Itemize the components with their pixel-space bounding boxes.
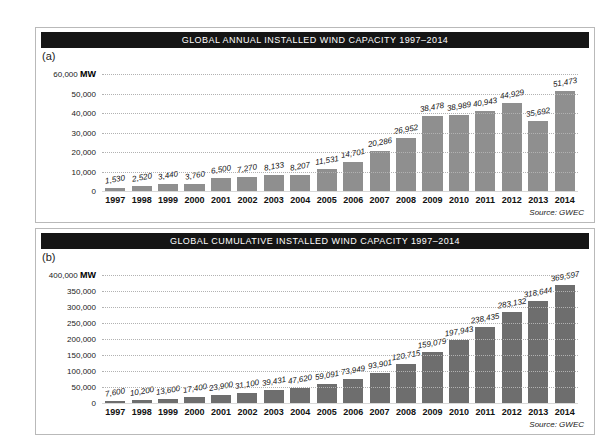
bar-value-label: 17,400 xyxy=(182,382,208,395)
chart-title-banner: GLOBAL ANNUAL INSTALLED WIND CAPACITY 19… xyxy=(41,32,589,48)
bar-value-label: 51,473 xyxy=(552,76,578,89)
bar xyxy=(105,401,125,403)
bar xyxy=(502,103,522,191)
bar-value-label: 6,500 xyxy=(210,163,231,175)
gridline xyxy=(102,152,578,153)
bar xyxy=(555,285,575,403)
chart-title-banner: GLOBAL CUMULATIVE INSTALLED WIND CAPACIT… xyxy=(41,233,589,249)
x-axis-baseline xyxy=(102,403,578,404)
x-tick-label: 2014 xyxy=(547,195,581,205)
source-credit: Source: GWEC xyxy=(36,208,584,217)
gridline xyxy=(102,133,578,134)
plot-area: 7,600199710,200199813,600199917,40020002… xyxy=(102,275,578,403)
bar xyxy=(290,175,310,191)
panel-letter-label: (a) xyxy=(42,50,594,63)
page: GLOBAL ANNUAL INSTALLED WIND CAPACITY 19… xyxy=(0,0,615,435)
bar-value-label: 47,620 xyxy=(287,373,313,386)
bar xyxy=(370,373,390,403)
bar xyxy=(132,400,152,403)
gridline xyxy=(102,94,578,95)
gridline xyxy=(102,172,578,173)
gridline xyxy=(102,355,578,356)
panel-letter-label: (b) xyxy=(42,251,594,264)
bar xyxy=(237,177,257,191)
gridline xyxy=(102,113,578,114)
y-axis-unit: MW xyxy=(80,270,96,280)
bar-value-label: 283,132 xyxy=(497,297,527,311)
bar-value-label: 7,600 xyxy=(105,386,126,398)
source-credit: Source: GWEC xyxy=(36,420,584,429)
y-tick-label: 300,000 xyxy=(67,303,96,312)
bar-value-label: 369,597 xyxy=(550,270,580,284)
y-tick-label: 200,000 xyxy=(67,335,96,344)
bar-value-label: 197,943 xyxy=(444,325,474,339)
gridline xyxy=(102,323,578,324)
bar-value-label: 40,943 xyxy=(473,96,499,109)
bar xyxy=(343,162,363,191)
plot-area: 1,53019972,52019983,44019993,76020006,50… xyxy=(102,74,578,191)
y-tick-label: 50,000 xyxy=(72,383,96,392)
bar-value-label: 26,952 xyxy=(393,123,419,136)
bar xyxy=(422,116,442,191)
bar xyxy=(184,184,204,191)
bar-value-label: 318,644 xyxy=(523,286,553,300)
gridline xyxy=(102,371,578,372)
bar-value-label: 20,286 xyxy=(367,136,393,149)
bar xyxy=(211,178,231,191)
gridline xyxy=(102,307,578,308)
bar xyxy=(449,115,469,191)
bar-value-label: 31,100 xyxy=(235,378,261,391)
chart-title: GLOBAL ANNUAL INSTALLED WIND CAPACITY 19… xyxy=(182,35,449,45)
y-tick-label: 40,000 xyxy=(72,109,96,118)
y-tick-label: 20,000 xyxy=(72,148,96,157)
bar-value-label: 13,600 xyxy=(155,384,181,397)
bar-value-label: 93,901 xyxy=(367,358,393,371)
y-tick-label: 0 xyxy=(92,399,96,408)
y-tick-label: 250,000 xyxy=(67,319,96,328)
bar xyxy=(422,352,442,403)
bar xyxy=(502,312,522,403)
bar xyxy=(184,397,204,403)
bar-value-label: 1,530 xyxy=(105,173,126,185)
y-tick-label: 50,000 xyxy=(72,89,96,98)
chart-title: GLOBAL CUMULATIVE INSTALLED WIND CAPACIT… xyxy=(170,236,460,246)
bar xyxy=(528,121,548,191)
gridline xyxy=(102,387,578,388)
y-tick-label: 10,000 xyxy=(72,167,96,176)
bar xyxy=(158,184,178,191)
bar xyxy=(290,388,310,403)
bar-value-label: 2,520 xyxy=(131,171,152,183)
bar xyxy=(475,111,495,191)
bar xyxy=(396,138,416,191)
y-tick-label: 60,000 MW xyxy=(53,69,96,79)
bar xyxy=(264,390,284,403)
x-axis-baseline xyxy=(102,191,578,192)
bar xyxy=(264,175,284,191)
y-tick-label: 30,000 xyxy=(72,128,96,137)
x-tick-label: 2014 xyxy=(547,407,581,417)
bar-value-label: 38,989 xyxy=(446,100,472,113)
gridline xyxy=(102,74,578,75)
y-axis-unit: MW xyxy=(80,69,96,79)
gridline xyxy=(102,275,578,276)
bar-value-label: 7,270 xyxy=(237,162,258,174)
y-tick-label: 100,000 xyxy=(67,367,96,376)
gridline xyxy=(102,291,578,292)
bar-value-label: 11,531 xyxy=(314,154,339,167)
gridline xyxy=(102,339,578,340)
y-tick-label: 400,000 MW xyxy=(49,270,96,280)
y-tick-label: 0 xyxy=(92,187,96,196)
bar xyxy=(211,395,231,403)
bar-value-label: 44,929 xyxy=(499,88,525,101)
bar-value-label: 14,701 xyxy=(340,147,366,160)
bar xyxy=(555,91,575,191)
bar xyxy=(237,393,257,403)
chart-panel-cumulative: GLOBAL CUMULATIVE INSTALLED WIND CAPACIT… xyxy=(35,228,595,435)
y-tick-label: 150,000 xyxy=(67,351,96,360)
bar xyxy=(343,379,363,403)
y-tick-label: 350,000 xyxy=(67,287,96,296)
chart-panel-annual: GLOBAL ANNUAL INSTALLED WIND CAPACITY 19… xyxy=(35,27,595,223)
bar xyxy=(132,186,152,191)
bar xyxy=(105,188,125,191)
bar xyxy=(158,399,178,403)
